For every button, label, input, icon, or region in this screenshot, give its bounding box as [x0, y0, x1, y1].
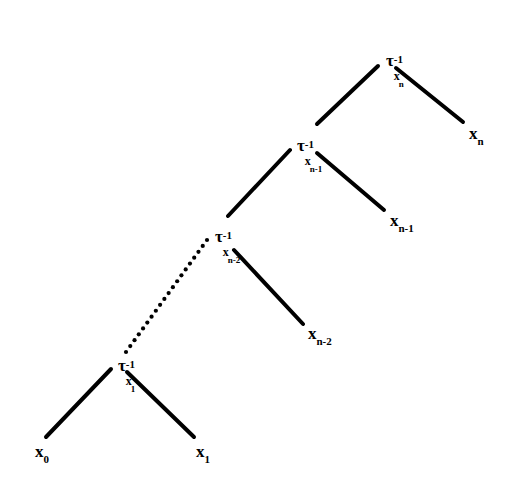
edge-dot	[179, 273, 183, 277]
leaf-subscript: 0	[44, 453, 50, 465]
node-leaf-x1: x1	[196, 443, 210, 463]
superscript: -1	[394, 54, 403, 65]
edge-dot	[184, 267, 188, 271]
edge-tau-1-to-leaf-x1	[127, 372, 194, 437]
node-tau-n: τ-1xn	[386, 52, 394, 69]
subscript-index: n	[399, 79, 404, 89]
subscript-index: n-2	[228, 255, 241, 265]
edge-dot	[124, 350, 128, 354]
tau-glyph: τ	[297, 136, 305, 155]
edge-tau-1-to-leaf-x0	[46, 369, 111, 437]
node-tau-n-2: τ-1xn-2	[215, 228, 223, 245]
edge-tau-n-1-to-tau-n-2	[228, 150, 290, 216]
node-leaf-x0: x0	[35, 443, 49, 463]
subscript: xn	[394, 70, 405, 85]
leaf-variable: x	[308, 324, 317, 343]
superscript: -1	[126, 359, 135, 370]
edge-tau-n-to-tau-n-1	[317, 66, 378, 124]
edge-tau-n-2-to-leaf-xn-2	[234, 250, 303, 324]
edge-dot	[145, 320, 149, 324]
leaf-subscript: n-1	[399, 222, 414, 234]
edge-dot	[162, 297, 166, 301]
node-leaf-xn-1: xn-1	[390, 212, 414, 232]
edge-dot	[128, 344, 132, 348]
edge-tau-n-to-leaf-xn	[396, 68, 463, 122]
edge-dot	[175, 279, 179, 283]
tree-diagram: τ-1xnτ-1xn-1τ-1xn-2τ-1x1xnxn-1xn-2x1x0	[0, 0, 516, 485]
tau-glyph: τ	[386, 51, 394, 70]
subscript-index: 1	[131, 384, 136, 394]
node-leaf-xn: xn	[469, 125, 484, 145]
subscript-index: n-1	[310, 164, 323, 174]
edge-dot	[132, 338, 136, 342]
edge-dot	[158, 303, 162, 307]
edge-dot	[192, 256, 196, 260]
leaf-variable: x	[390, 211, 399, 230]
superscript: -1	[305, 139, 314, 150]
node-tau-n-1: τ-1xn-1	[297, 137, 305, 154]
edge-dot	[205, 238, 209, 242]
node-tau-1: τ-1x1	[118, 357, 126, 374]
superscript: -1	[223, 230, 232, 241]
edge-dot	[154, 309, 158, 313]
subscript: xn-1	[305, 155, 324, 170]
edge-dot	[171, 285, 175, 289]
leaf-subscript: n	[478, 135, 484, 147]
leaf-variable: x	[469, 124, 478, 143]
edge-dot	[137, 332, 141, 336]
edge-layer	[0, 0, 516, 485]
leaf-variable: x	[196, 442, 205, 461]
edge-tau-n-1-to-leaf-xn-1	[317, 153, 384, 210]
subscript: xn-2	[223, 246, 242, 261]
tau-glyph: τ	[118, 356, 126, 375]
edge-group	[46, 66, 463, 437]
edge-dot	[188, 261, 192, 265]
subscript: x1	[126, 375, 137, 390]
tau-glyph: τ	[215, 227, 223, 246]
leaf-subscript: n-2	[317, 335, 332, 347]
edge-dot	[149, 315, 153, 319]
edge-dot	[141, 326, 145, 330]
edge-dot	[201, 244, 205, 248]
leaf-subscript: 1	[205, 453, 211, 465]
node-leaf-xn-2: xn-2	[308, 325, 332, 345]
edge-dot	[167, 291, 171, 295]
edge-dot	[196, 250, 200, 254]
leaf-variable: x	[35, 442, 44, 461]
